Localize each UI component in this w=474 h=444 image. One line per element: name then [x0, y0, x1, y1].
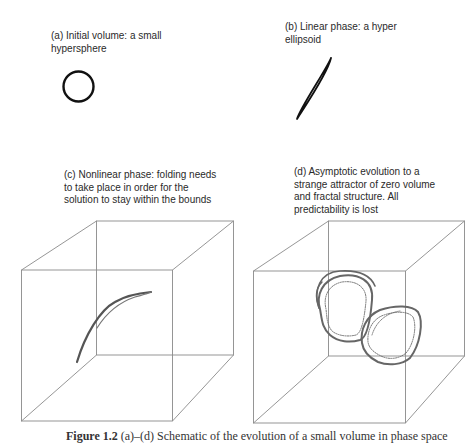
panel-b-ellipsoid	[297, 58, 331, 119]
panel-c-folded-curve	[77, 292, 151, 362]
panel-c-cube	[22, 221, 234, 421]
panel-a-hypersphere	[64, 72, 94, 102]
panel-d-cube	[254, 221, 465, 423]
figure-number: Figure 1.2	[66, 429, 118, 443]
figure-caption-text: (a)–(d) Schematic of the evolution of a …	[121, 429, 448, 443]
figure-caption: Figure 1.2 (a)–(d) Schematic of the evol…	[66, 429, 448, 444]
